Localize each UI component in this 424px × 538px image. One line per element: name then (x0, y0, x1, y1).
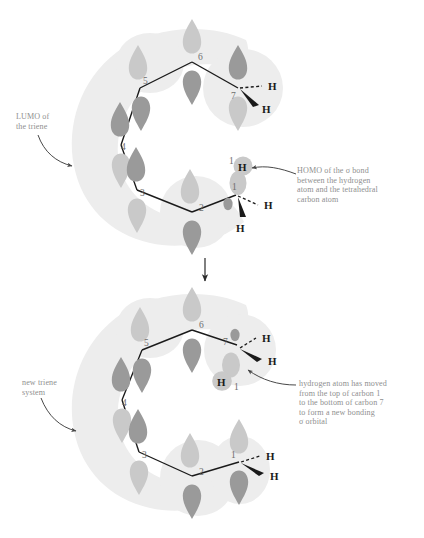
homo-caption-line-4: carbon atom (297, 195, 378, 205)
carbon-number-6: 6 (198, 52, 203, 62)
lumo-caption-line-2: the triene (16, 122, 49, 132)
figure-canvas: 6 5 4 3 2 7 1 1 H H H H H (0, 0, 424, 538)
hydrogen-label-c7-wedge-bottom: H (268, 355, 277, 367)
new-triene-caption: new triene system (22, 378, 57, 397)
moved-caption-line-4: to form a new bonding (299, 408, 387, 418)
triene-cloud-top (72, 29, 283, 248)
new-triene-caption-line-2: system (22, 388, 57, 398)
carbon-number-7-bottom: 7 (223, 337, 228, 347)
bottom-panel-group: 6 5 4 3 2 7 1 1 H H H H H (41, 287, 296, 519)
carbon-number-5-bottom: 5 (144, 338, 149, 348)
carbon-number-1-sigma-lower: 1 (232, 182, 237, 192)
carbon-number-3-bottom: 3 (142, 450, 147, 460)
homo-leader-arrow (252, 167, 296, 174)
hydrogen-label-c1-wedge-bottom: H (270, 470, 279, 482)
carbon-number-1-sigma-upper: 1 (229, 156, 234, 166)
homo-caption-line-1: HOMO of the σ bond (297, 166, 378, 176)
carbon-number-4: 4 (121, 142, 126, 152)
carbon-number-5: 5 (143, 76, 148, 86)
homo-caption-line-3: atom and the tetrahedral (297, 185, 378, 195)
lumo-leader-arrow (38, 135, 72, 166)
hydrogen-label-c1-wedge: H (236, 222, 245, 234)
moved-caption-line-5: σ orbital (299, 417, 387, 427)
carbon-number-2: 2 (199, 203, 204, 213)
hydrogen-label-c1-dash: H (264, 199, 273, 211)
carbon-number-2-bottom: 2 (199, 467, 204, 477)
new-triene-leader-arrow (41, 398, 76, 431)
hydrogen-label-sigma-bottom: H (217, 376, 226, 388)
hydrogen-label-c7-dash-bottom: H (262, 332, 271, 344)
moved-caption-line-2: from the top of carbon 1 (299, 389, 387, 399)
top-panel-group: 6 5 4 3 2 7 1 1 H H H H H (38, 19, 296, 255)
carbon-number-4-bottom: 4 (122, 398, 127, 408)
moved-caption-line-1: hydrogen atom has moved (299, 379, 387, 389)
hydrogen-label-sigma-top: H (238, 161, 247, 173)
lumo-caption: LUMO of the triene (16, 112, 49, 131)
hydrogen-label-c1-dash-bottom: H (266, 450, 275, 462)
hydrogen-label-c7-wedge: H (262, 103, 271, 115)
carbon-number-1-bottom: 1 (231, 450, 236, 460)
homo-caption: HOMO of the σ bond between the hydrogen … (297, 166, 378, 204)
lumo-caption-line-1: LUMO of (16, 112, 49, 122)
carbon-number-1-bottom-sigma: 1 (234, 382, 239, 392)
moved-hydrogen-caption: hydrogen atom has moved from the top of … (299, 379, 387, 427)
carbon-number-6-bottom: 6 (199, 320, 204, 330)
carbon-number-3: 3 (140, 188, 145, 198)
orbital-diagram-svg: 6 5 4 3 2 7 1 1 H H H H H (0, 0, 424, 538)
carbon-number-7: 7 (231, 91, 236, 101)
c1-hydrogen-bonds-top (238, 196, 258, 217)
homo-caption-line-2: between the hydrogen (297, 176, 378, 186)
hydrogen-label-c7-dash: H (268, 80, 277, 92)
moved-caption-line-3: to the bottom of carbon 7 (299, 398, 387, 408)
new-triene-caption-line-1: new triene (22, 378, 57, 388)
